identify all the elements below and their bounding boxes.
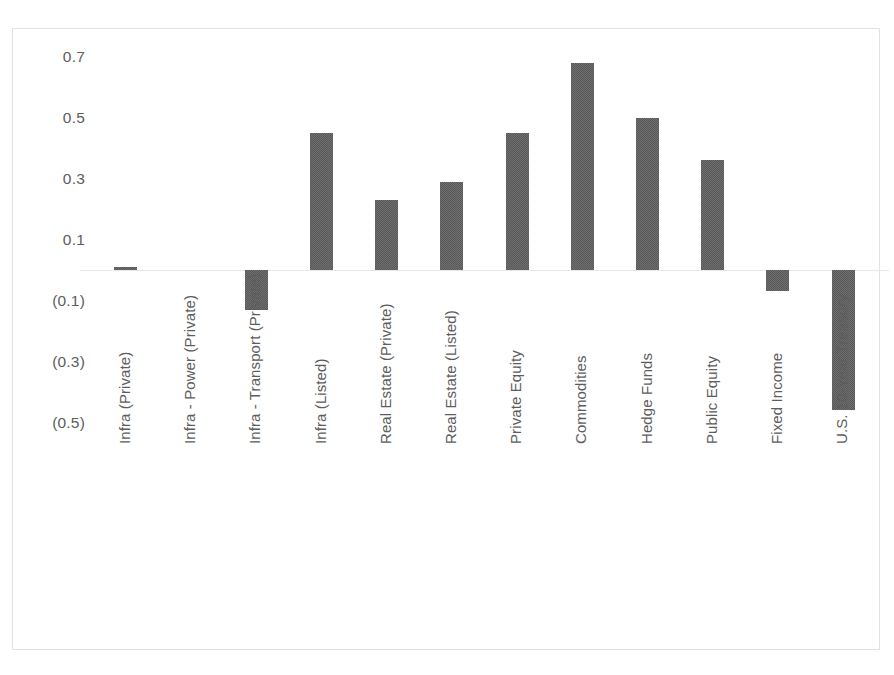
bar-group: Hedge Funds	[615, 29, 680, 649]
bar-group: Public Equity	[680, 29, 745, 649]
bar-group: Infra (Private)	[93, 29, 158, 649]
x-axis-tick-label: Hedge Funds	[639, 353, 654, 444]
bar-group: Infra - Transport (Private)	[224, 29, 289, 649]
x-axis-tick-label: U.S. 10-Year Treasury	[834, 294, 849, 444]
x-axis-tick-label: Infra - Transport (Private)	[247, 274, 262, 444]
bar[interactable]	[636, 118, 659, 271]
bar[interactable]	[571, 63, 594, 270]
bar-group: Private Equity	[485, 29, 550, 649]
x-axis-tick-label: Infra (Listed)	[313, 358, 328, 444]
x-axis-tick-label: Infra - Power (Private)	[182, 295, 197, 444]
x-axis-tick-label: Private Equity	[508, 350, 523, 444]
bar[interactable]	[766, 270, 789, 291]
bar-group: Commodities	[550, 29, 615, 649]
x-axis-tick-label: Real Estate (Listed)	[443, 310, 458, 444]
bar-group: Infra - Power (Private)	[159, 29, 224, 649]
x-axis-tick-label: Real Estate (Private)	[378, 304, 393, 444]
x-axis-tick-label: Commodities	[573, 355, 588, 444]
bar[interactable]	[310, 133, 333, 270]
bar-group: U.S. 10-Year Treasury	[811, 29, 876, 649]
plot-area: 0.70.50.30.1(0.1)(0.3)(0.5) Infra (Priva…	[13, 29, 879, 649]
bar[interactable]	[114, 267, 137, 270]
x-axis-tick-label: Infra (Private)	[117, 352, 132, 444]
bar[interactable]	[701, 160, 724, 270]
bar-group: Fixed Income	[745, 29, 810, 649]
bar-group: Real Estate (Private)	[354, 29, 419, 649]
x-axis-tick-label: Fixed Income	[769, 353, 784, 444]
x-axis-tick-label: Public Equity	[704, 356, 719, 444]
bar[interactable]	[506, 133, 529, 270]
bar-series: Infra (Private)Infra - Power (Private)In…	[13, 29, 879, 649]
chart-container: 0.70.50.30.1(0.1)(0.3)(0.5) Infra (Priva…	[12, 28, 880, 650]
bar[interactable]	[440, 182, 463, 270]
bar-group: Real Estate (Listed)	[419, 29, 484, 649]
bar[interactable]	[375, 200, 398, 270]
bar-group: Infra (Listed)	[289, 29, 354, 649]
